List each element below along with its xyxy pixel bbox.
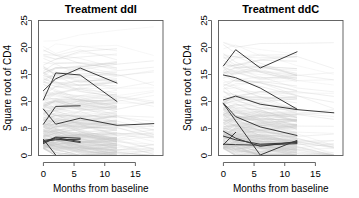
faint-trajectories (43, 27, 153, 156)
x-tick-label: 5 (251, 168, 256, 179)
x-tick-label: 10 (279, 168, 290, 179)
y-tick-label: 20 (198, 42, 209, 53)
y-tick-label: 25 (18, 15, 29, 26)
x-axis-label: Months from baseline (53, 183, 149, 194)
x-tick-label: 15 (130, 168, 141, 179)
faint-trajectory (43, 53, 117, 59)
y-tick-label: 0 (198, 153, 209, 158)
y-tick-label: 0 (18, 153, 29, 158)
y-tick-label: 15 (198, 69, 209, 80)
chart-panel-ddI: 0510152025051015Treatment ddIMonths from… (0, 0, 179, 198)
y-tick-label: 10 (18, 96, 29, 107)
x-tick-label: 0 (221, 168, 226, 179)
x-tick-label: 5 (71, 168, 76, 179)
panel-title: Treatment ddI (65, 3, 137, 15)
y-tick-label: 5 (18, 126, 29, 131)
x-tick-label: 0 (41, 168, 46, 179)
y-axis-label: Square root of CD4 (182, 44, 193, 131)
faint-trajectory (43, 44, 153, 56)
y-tick-label: 5 (198, 126, 209, 131)
y-tick-label: 10 (198, 96, 209, 107)
y-tick-label: 20 (18, 42, 29, 53)
y-axis-label: Square root of CD4 (2, 44, 13, 131)
faint-trajectory (43, 27, 153, 41)
faint-trajectory (43, 61, 153, 74)
figure-root: 0510152025051015Treatment ddIMonths from… (0, 0, 359, 198)
x-axis-label: Months from baseline (233, 183, 329, 194)
panel-title: Treatment ddC (242, 3, 319, 15)
y-tick-label: 25 (198, 15, 209, 26)
y-tick-label: 15 (18, 69, 29, 80)
chart-panel-ddC: 0510152025051015Treatment ddCMonths from… (180, 0, 359, 198)
x-tick-label: 10 (99, 168, 110, 179)
x-tick-label: 15 (310, 168, 321, 179)
